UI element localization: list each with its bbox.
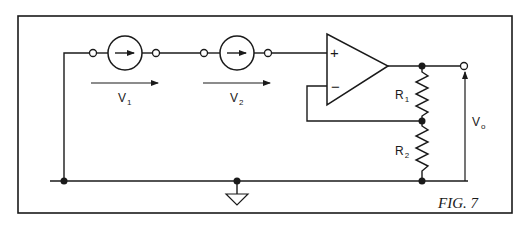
source-v2 bbox=[201, 36, 272, 70]
terminal-icon bbox=[265, 50, 272, 57]
circuit-diagram: V1 V2 + − R1 R2 Vo FIG. 7 bbox=[0, 0, 528, 229]
junction-dot-icon bbox=[61, 178, 68, 185]
junction-dot-icon bbox=[419, 178, 426, 185]
plus-input-label: + bbox=[330, 44, 339, 61]
resistor-r2: R2 bbox=[395, 121, 428, 181]
r1-label: R1 bbox=[395, 88, 410, 104]
v2-label: V2 bbox=[230, 91, 244, 107]
resistor-r1: R1 bbox=[395, 66, 428, 121]
source-v1 bbox=[90, 36, 160, 70]
vo-arrow: Vo bbox=[465, 72, 486, 181]
terminal-icon bbox=[153, 50, 160, 57]
minus-input-label: − bbox=[331, 78, 340, 95]
terminal-icon bbox=[201, 50, 208, 57]
resistor-zigzag-icon bbox=[416, 66, 428, 121]
v1-arrow: V1 bbox=[91, 83, 158, 107]
resistor-zigzag-icon bbox=[416, 121, 428, 181]
op-amp: + − bbox=[327, 34, 388, 105]
input-wiring bbox=[64, 53, 89, 181]
output-terminal-icon bbox=[461, 63, 468, 70]
figure-frame bbox=[18, 16, 512, 213]
ground-icon bbox=[226, 181, 248, 205]
v1-label: V1 bbox=[118, 91, 132, 107]
r2-label: R2 bbox=[395, 144, 410, 160]
vo-label: Vo bbox=[472, 115, 486, 131]
figure-caption: FIG. 7 bbox=[437, 195, 479, 211]
terminal-icon bbox=[90, 50, 97, 57]
v2-arrow: V2 bbox=[203, 83, 270, 107]
